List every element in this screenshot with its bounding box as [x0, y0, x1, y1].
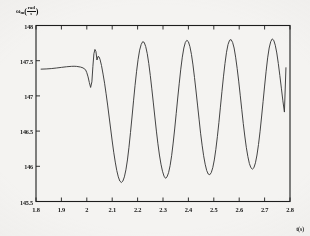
x-tick-label: 1.8: [32, 206, 39, 213]
axes-frame: [36, 26, 290, 202]
y-tick-label: 147.5: [0, 57, 33, 64]
chart-plot-area: [0, 0, 310, 236]
figure-container: ωm(rads) 145.5146146.5147147.5148 1.81.9…: [0, 0, 310, 236]
x-tick-label: 2.3: [159, 206, 166, 213]
y-tick-label: 147: [0, 92, 33, 99]
y-tick-label: 146.5: [0, 128, 33, 135]
x-tick-label: 2.2: [134, 206, 141, 213]
x-axis-title: t(s): [296, 226, 304, 232]
x-tick-label: 1.9: [58, 206, 65, 213]
y-tick-label: 146: [0, 163, 33, 170]
x-tick-label: 2: [85, 206, 88, 213]
data-series-line: [41, 39, 286, 183]
x-tick-label: 2.6: [235, 206, 242, 213]
x-tick-label: 2.7: [261, 206, 268, 213]
x-tick-label: 2.1: [108, 206, 115, 213]
axis-ticks: [36, 26, 290, 202]
y-tick-label: 148: [0, 22, 33, 29]
x-tick-label: 2.5: [210, 206, 217, 213]
x-tick-label: 2.4: [185, 206, 192, 213]
plot-frame: [36, 26, 290, 202]
x-tick-label: 2.8: [286, 206, 293, 213]
y-tick-label: 145.5: [0, 198, 33, 205]
